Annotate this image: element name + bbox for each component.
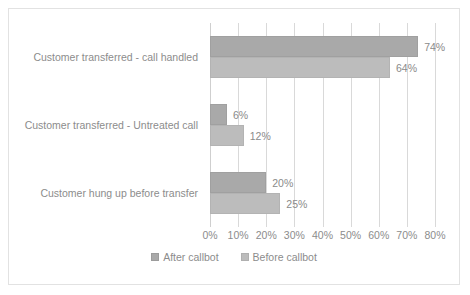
x-axis-tick-labels: 0%10%20%30%40%50%60%70%80%: [210, 229, 435, 245]
bar-row: 25%: [210, 193, 435, 214]
bar-row: 74%: [210, 36, 435, 57]
bar-value-label: 6%: [227, 109, 248, 121]
category-axis-labels: Customer transferred - call handledCusto…: [9, 23, 204, 227]
plot-area: 74%64%6%12%20%25%: [210, 23, 435, 227]
legend-swatch-icon: [241, 253, 249, 261]
legend-label: After callbot: [163, 251, 218, 263]
bar-1-2[interactable]: [210, 193, 280, 214]
category-label: Customer hung up before transfer: [40, 187, 198, 199]
bar-row: 12%: [210, 125, 435, 146]
bar-row: 20%: [210, 172, 435, 193]
x-tick-label: 40%: [312, 229, 333, 241]
gridline-80%: [435, 23, 436, 227]
x-tick-label: 70%: [396, 229, 417, 241]
x-tick-label: 80%: [424, 229, 445, 241]
bar-row: 6%: [210, 104, 435, 125]
x-tick-label: 30%: [284, 229, 305, 241]
bar-1-1[interactable]: [210, 125, 244, 146]
bar-value-label: 64%: [390, 62, 417, 74]
bar-value-label: 74%: [418, 41, 445, 53]
bar-value-label: 12%: [244, 130, 271, 142]
bar-group: 74%64%: [210, 36, 435, 78]
x-tick-label: 10%: [228, 229, 249, 241]
x-tick-label: 60%: [368, 229, 389, 241]
bar-value-label: 25%: [280, 198, 307, 210]
legend-item-1[interactable]: Before callbot: [241, 251, 317, 263]
legend-swatch-icon: [151, 253, 159, 261]
bar-1-0[interactable]: [210, 57, 390, 78]
x-tick-label: 50%: [340, 229, 361, 241]
category-label: Customer transferred - Untreated call: [25, 119, 198, 131]
category-label: Customer transferred - call handled: [33, 51, 198, 63]
bar-group: 20%25%: [210, 172, 435, 214]
legend-item-0[interactable]: After callbot: [151, 251, 218, 263]
x-tick-label: 20%: [256, 229, 277, 241]
bar-0-2[interactable]: [210, 172, 266, 193]
bar-row: 64%: [210, 57, 435, 78]
bar-value-label: 20%: [266, 177, 293, 189]
x-tick-label: 0%: [202, 229, 217, 241]
legend-label: Before callbot: [253, 251, 317, 263]
bar-0-1[interactable]: [210, 104, 227, 125]
bar-group: 6%12%: [210, 104, 435, 146]
chart-container: Customer transferred - call handledCusto…: [8, 8, 460, 285]
chart-legend: After callbotBefore callbot: [9, 251, 459, 263]
bar-0-0[interactable]: [210, 36, 418, 57]
